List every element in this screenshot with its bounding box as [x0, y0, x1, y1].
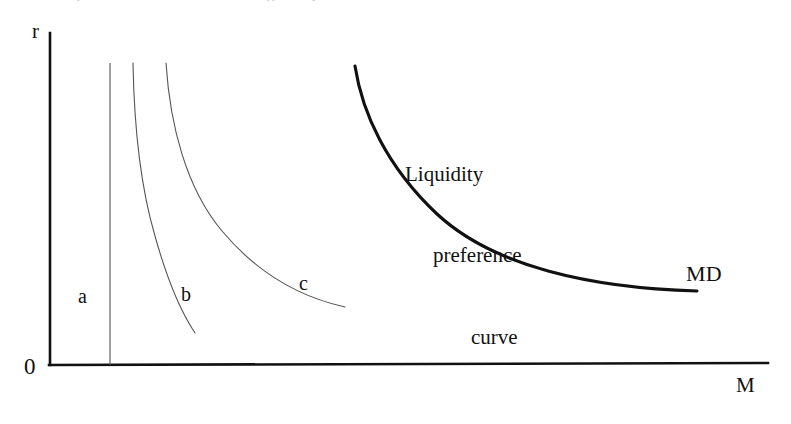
curve-label-b: b: [181, 283, 191, 305]
plot-canvas: [0, 0, 791, 424]
curve-c-path: [166, 63, 345, 307]
curve-label-a: a: [78, 285, 87, 307]
liquidity-preference-figure: , p y r M 0 a b c MD Liquidity preferenc…: [0, 0, 791, 424]
curve-label-c: c: [299, 272, 308, 294]
origin-label: 0: [24, 354, 36, 380]
liquidity-preference-annotation: Liquidity preference curve: [405, 106, 522, 406]
annotation-line-2: preference: [433, 242, 522, 269]
x-axis-label: M: [736, 374, 755, 398]
y-axis-label: r: [32, 20, 39, 44]
curve-label-md: MD: [686, 262, 722, 287]
annotation-line-3: curve: [471, 324, 522, 351]
annotation-line-1: Liquidity: [405, 161, 522, 188]
